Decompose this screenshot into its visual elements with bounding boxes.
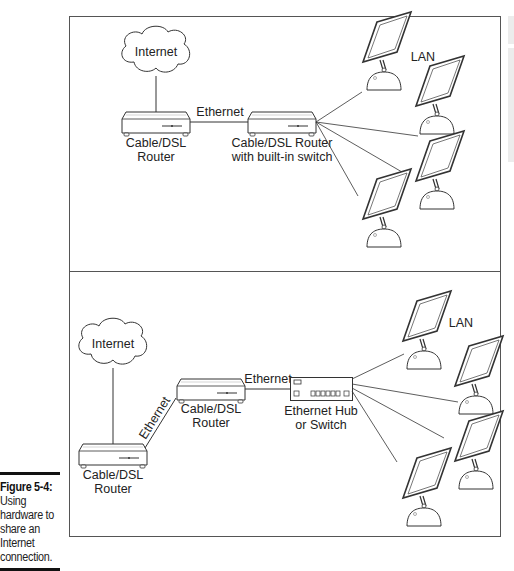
router-label-2: Router [137, 150, 175, 164]
bottom-diagram: Internet Cable/DSL Router Ethernet Cable… [79, 291, 503, 526]
top-diagram: Internet Cable/DSL Router Ethernet Cable… [122, 12, 464, 247]
router-label-1: Cable/DSL [126, 136, 186, 150]
lan-label: LAN [411, 50, 435, 64]
router-1-label-1: Cable/DSL [83, 468, 143, 482]
computer-icon [455, 411, 503, 489]
router-2-label-1: Cable/DSL [181, 402, 241, 416]
caption-line: share an [0, 522, 59, 536]
computer-icon [455, 336, 503, 414]
computer-icon [403, 291, 451, 369]
internet-label: Internet [135, 45, 178, 59]
hub-label-1: Ethernet Hub [284, 404, 358, 418]
switch-router-icon [248, 112, 316, 136]
ethernet-label: Ethernet [244, 372, 292, 386]
computer-icon [363, 169, 411, 247]
computer-icon [403, 448, 451, 526]
switch-router-label-1: Cable/DSL Router [232, 136, 333, 150]
router-2-label-2: Router [192, 416, 230, 430]
hub-switch-icon [291, 378, 353, 401]
caption-line: connection. [0, 550, 59, 564]
internet-label: Internet [92, 337, 135, 351]
computer-icon [416, 131, 464, 209]
router-icon [177, 379, 245, 403]
caption-line: Using [0, 494, 59, 508]
router-icon [79, 444, 147, 468]
router-icon [122, 112, 190, 136]
figure-label: Figure 5-4: [0, 480, 59, 494]
figure-caption: Figure 5-4: Using hardware to share an I… [0, 472, 60, 571]
computer-icon [416, 56, 464, 134]
computer-icon [363, 12, 411, 90]
switch-router-label-2: with built-in switch [231, 150, 333, 164]
router-1-label-2: Router [94, 482, 132, 496]
hub-label-2: or Switch [295, 418, 346, 432]
caption-line: Internet [0, 536, 59, 550]
ethernet-label: Ethernet [196, 105, 244, 119]
ethernet-diagonal-label: Ethernet [136, 394, 173, 442]
caption-line: hardware to [0, 508, 59, 522]
lan-label: LAN [449, 316, 473, 330]
